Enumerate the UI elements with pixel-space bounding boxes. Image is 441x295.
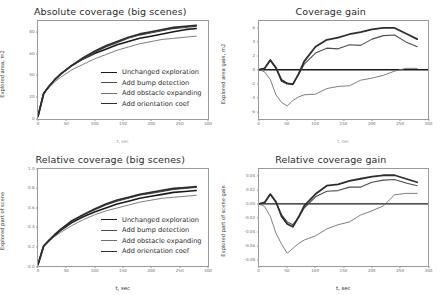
y-axis-tick-mark	[257, 259, 259, 260]
y-axis-label: Explored part of scene	[0, 192, 5, 251]
x-axis-tick-label: 100	[311, 268, 319, 273]
x-axis-tick-mark	[179, 266, 180, 268]
panel-title: Relative coverage (big scenes)	[0, 154, 221, 165]
y-axis-tick-label: 0	[252, 67, 255, 72]
legend-item[interactable]: Add bump detection	[101, 79, 201, 87]
y-axis-tick-mark	[257, 231, 259, 232]
x-axis-tick-label: 0	[257, 121, 260, 126]
y-axis-tick-label: 60	[29, 50, 34, 55]
legend-item-label: Add obstacle expanding	[122, 89, 201, 97]
x-axis-tick-mark	[315, 119, 316, 121]
y-axis-tick-mark	[36, 188, 38, 189]
plot-area: 050100150200250300	[258, 168, 430, 268]
y-axis-tick-label: 0.8	[28, 185, 35, 190]
legend-item-label: Add obstacle expanding	[122, 237, 201, 245]
x-axis-tick-mark	[179, 119, 180, 121]
plot-area: 050100150200250300	[258, 20, 430, 120]
chart-legend: Unchanged explorationAdd bump detectionA…	[101, 216, 201, 258]
y-axis-tick-label: -0.02	[244, 214, 255, 219]
chart-canvas	[259, 21, 429, 119]
x-axis-tick-mark	[371, 119, 372, 121]
panel-coverage-gain: Coverage gain Explored area gain, m2 t, …	[221, 0, 441, 148]
legend-item[interactable]: Add obstacle expanding	[101, 89, 201, 97]
legend-item[interactable]: Add obstacle expanding	[101, 237, 201, 245]
y-axis-tick-mark	[36, 31, 38, 32]
y-axis-tick-mark	[257, 189, 259, 190]
legend-item-label: Add bump detection	[122, 79, 189, 87]
x-axis-tick-label: 200	[147, 121, 155, 126]
x-axis-tick-label: 150	[340, 121, 348, 126]
x-axis-tick-label: 50	[284, 268, 289, 273]
y-axis-tick-label: 0.00	[246, 200, 255, 205]
y-axis-tick-mark	[257, 28, 259, 29]
legend-item[interactable]: Unchanged exploration	[101, 216, 201, 224]
x-axis-tick-mark	[258, 119, 259, 121]
y-axis-tick-label: -6	[251, 109, 255, 114]
plot-area: 050100150200250300Unchanged explorationA…	[37, 168, 209, 268]
y-axis-tick-label: 4	[252, 39, 255, 44]
x-axis-tick-label: 150	[340, 268, 348, 273]
y-axis-label: Explored part of scene gain	[220, 186, 226, 257]
legend-item-label: Unchanged exploration	[122, 68, 199, 76]
y-axis-tick-label: -0.06	[244, 242, 255, 247]
y-axis-tick-mark	[36, 97, 38, 98]
x-axis-tick-label: 300	[425, 268, 433, 273]
chart-legend: Unchanged explorationAdd bump detectionA…	[101, 68, 201, 110]
y-axis-tick-label: 0.6	[28, 204, 35, 209]
chart-canvas	[259, 169, 429, 267]
x-axis-tick-mark	[208, 266, 209, 268]
x-axis-tick-label: 300	[425, 121, 433, 126]
x-axis-tick-mark	[428, 266, 429, 268]
legend-line-swatch	[101, 103, 117, 104]
legend-item-label: Unchanged exploration	[122, 216, 199, 224]
y-axis-tick-label: 0.04	[246, 172, 255, 177]
legend-item[interactable]: Add bump detection	[101, 226, 201, 234]
y-axis-tick-label: 0.4	[28, 224, 35, 229]
y-axis-tick-mark	[257, 175, 259, 176]
y-axis-tick-mark	[36, 168, 38, 169]
x-axis-tick-mark	[38, 266, 39, 268]
y-axis-tick-label: 2	[252, 53, 255, 58]
x-axis-tick-mark	[66, 266, 67, 268]
x-axis-label: t, sec	[258, 139, 430, 144]
y-axis-tick-label: 20	[29, 94, 34, 99]
x-axis-label: t, sec	[37, 139, 209, 144]
legend-item[interactable]: Add orientation coef	[101, 100, 201, 108]
x-axis-label: t, sec	[258, 285, 430, 291]
panel-title: Relative coverage gain	[221, 154, 441, 165]
y-axis-tick-label: -0.04	[244, 228, 255, 233]
y-axis-tick-mark	[257, 112, 259, 113]
legend-item[interactable]: Add orientation coef	[101, 247, 201, 255]
y-axis-tick-mark	[257, 98, 259, 99]
x-axis-tick-label: 100	[91, 268, 99, 273]
y-axis-tick-mark	[257, 217, 259, 218]
y-axis-tick-mark	[36, 75, 38, 76]
x-axis-tick-mark	[94, 119, 95, 121]
y-axis-tick-label: 40	[29, 72, 34, 77]
y-axis-tick-label: 0	[32, 116, 35, 121]
y-axis-tick-label: 80	[29, 28, 34, 33]
x-axis-tick-mark	[286, 266, 287, 268]
y-axis-tick-label: 1.0	[28, 165, 35, 170]
legend-item[interactable]: Unchanged exploration	[101, 68, 201, 76]
x-axis-tick-mark	[151, 119, 152, 121]
y-axis-tick-label: -0.08	[244, 256, 255, 261]
legend-line-swatch	[101, 251, 117, 252]
y-axis-tick-label: -2	[251, 81, 255, 86]
y-axis-tick-mark	[257, 70, 259, 71]
x-axis-tick-mark	[151, 266, 152, 268]
figure-grid: Absolute coverage (big scenes) Explored …	[0, 0, 441, 295]
y-axis-tick-label: 0.02	[246, 186, 255, 191]
series-line	[259, 175, 417, 227]
legend-item-label: Add orientation coef	[122, 247, 189, 255]
x-axis-tick-label: 50	[64, 121, 69, 126]
legend-item-label: Add bump detection	[122, 226, 189, 234]
legend-line-swatch	[101, 82, 117, 83]
y-axis-tick-label: 6	[252, 25, 255, 30]
y-axis-tick-label: 0.0	[28, 263, 35, 268]
x-axis-tick-mark	[371, 266, 372, 268]
x-axis-tick-mark	[38, 119, 39, 121]
x-axis-tick-label: 250	[396, 121, 404, 126]
x-axis-tick-mark	[400, 266, 401, 268]
legend-line-swatch	[101, 72, 117, 73]
